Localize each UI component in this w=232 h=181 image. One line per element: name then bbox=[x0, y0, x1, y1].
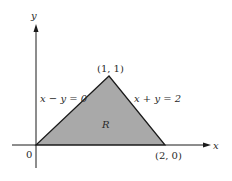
apex-point-label: (1, 1) bbox=[97, 63, 124, 74]
right-line-equation: x + y = 2 bbox=[134, 93, 181, 104]
region-label: R bbox=[101, 119, 110, 130]
region-r bbox=[36, 76, 165, 145]
x-axis-label: x bbox=[213, 140, 219, 151]
x-axis-arrow-icon bbox=[203, 143, 211, 148]
y-axis-arrow-icon bbox=[34, 24, 39, 32]
y-axis-label: y bbox=[30, 10, 37, 21]
region-diagram: y x 0 (1, 1) (2, 0) x − y = 0 x + y = 2 … bbox=[0, 0, 232, 181]
left-line-equation: x − y = 0 bbox=[40, 93, 88, 104]
right-point-label: (2, 0) bbox=[155, 150, 182, 161]
origin-label: 0 bbox=[26, 149, 32, 160]
